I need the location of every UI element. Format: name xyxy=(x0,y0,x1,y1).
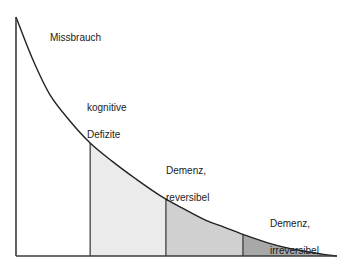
label-missbrauch-line-1: Missbrauch xyxy=(50,33,101,42)
label-demenz-reversibel: Demenz, reversibel xyxy=(166,148,209,211)
label-reversibel-line-2: reversibel xyxy=(166,193,209,202)
label-demenz-irreversibel: Demenz, irreversibel xyxy=(270,201,319,264)
label-kognitive-line-2: Defizite xyxy=(87,130,126,139)
label-kognitive-line-1: kognitive xyxy=(87,103,126,112)
label-kognitive-defizite: kognitive Defizite xyxy=(87,85,126,148)
zone-1 xyxy=(16,17,90,256)
label-missbrauch: Missbrauch xyxy=(50,15,101,51)
label-irreversibel-line-1: Demenz, xyxy=(270,219,319,228)
label-irreversibel-line-2: irreversibel xyxy=(270,246,319,255)
zone-2 xyxy=(90,143,166,256)
label-reversibel-line-1: Demenz, xyxy=(166,166,209,175)
